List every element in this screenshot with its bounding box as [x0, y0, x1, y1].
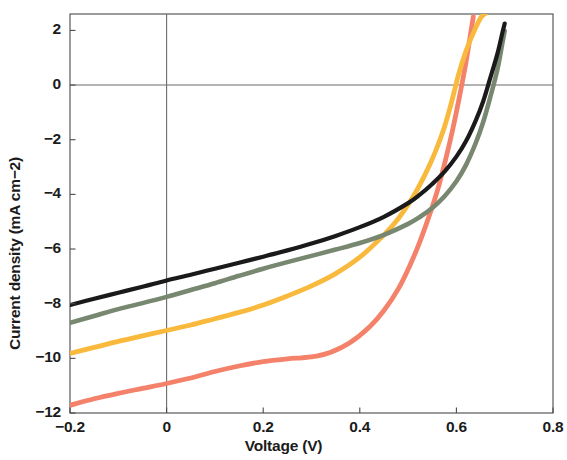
y-tick-label: −8: [44, 294, 62, 311]
data-curves: [70, 13, 505, 405]
plot-area: 20−2−4−6−8−10−12−0.200.20.40.60.8: [0, 0, 567, 460]
x-tick-label: −0.2: [55, 418, 85, 435]
y-tick-label: −10: [35, 348, 61, 365]
axis-tick-labels: 20−2−4−6−8−10−12−0.200.20.40.60.8: [35, 20, 564, 435]
x-tick-label: 0.8: [543, 418, 565, 435]
x-tick-label: 0: [162, 418, 170, 435]
x-axis-label: Voltage (V): [0, 437, 567, 455]
x-tick-label: 0.4: [349, 418, 371, 435]
y-tick-label: −6: [44, 239, 62, 256]
curve-amber: [70, 13, 485, 353]
axes-frame: [70, 14, 553, 413]
y-tick-label: 0: [53, 75, 61, 92]
x-tick-label: 0.6: [446, 418, 468, 435]
y-tick-label: −2: [44, 130, 61, 147]
y-axis-label: Current density (mA cm−2): [6, 157, 24, 350]
plot-frame: [70, 14, 553, 413]
y-tick-label: 2: [53, 20, 61, 37]
y-tick-label: −4: [44, 184, 62, 201]
x-tick-label: 0.2: [253, 418, 274, 435]
curve-salmon: [70, 17, 473, 406]
jv-curve-figure: 20−2−4−6−8−10−12−0.200.20.40.60.8 Curren…: [0, 0, 567, 460]
